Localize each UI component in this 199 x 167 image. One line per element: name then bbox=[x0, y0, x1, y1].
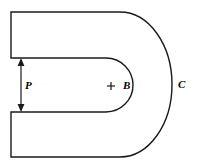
dimension-arrowhead-up bbox=[18, 58, 25, 66]
slotted-profile-outline bbox=[11, 12, 172, 157]
cross-marker-icon bbox=[107, 82, 115, 90]
dimension-arrow-p bbox=[18, 58, 25, 112]
label-centroid: B bbox=[123, 80, 130, 91]
figure-container: P B C bbox=[0, 0, 199, 167]
dimension-arrowhead-down bbox=[18, 104, 25, 112]
label-outer-curve: C bbox=[178, 79, 185, 90]
label-gap-dimension: P bbox=[25, 80, 32, 91]
